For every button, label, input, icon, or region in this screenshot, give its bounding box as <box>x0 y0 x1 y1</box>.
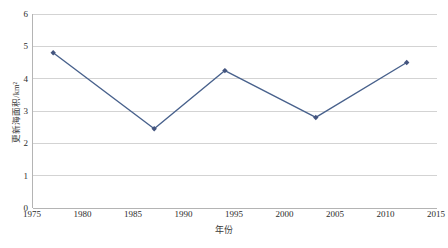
y-tick-label: 1 <box>14 171 28 180</box>
x-tick-label: 2005 <box>315 210 355 219</box>
y-tick-label: 3 <box>14 107 28 116</box>
data-series-layer <box>51 50 410 131</box>
y-tick-label: 4 <box>14 74 28 83</box>
x-tick-label: 1990 <box>164 210 204 219</box>
y-tick-label: 6 <box>14 10 28 19</box>
x-tick-label: 2015 <box>416 210 448 219</box>
x-tick-label: 1985 <box>113 210 153 219</box>
x-tick-label: 1975 <box>12 210 52 219</box>
gridlines <box>33 14 437 208</box>
y-tick-label: 5 <box>14 42 28 51</box>
x-tick-label: 1980 <box>63 210 103 219</box>
x-axis-tick-labels: 197519801985199019952000200520102015 <box>32 210 436 224</box>
line-chart: 更新海面积/km² 0123456 1975198019851990199520… <box>0 0 448 248</box>
plot-area <box>32 14 437 208</box>
y-axis-tick-labels: 0123456 <box>14 14 28 208</box>
x-tick-label: 2010 <box>366 210 406 219</box>
plot-canvas <box>33 14 437 208</box>
series-line <box>53 53 407 129</box>
y-tick-label: 2 <box>14 139 28 148</box>
x-tick-label: 1995 <box>214 210 254 219</box>
x-axis-title: 年份 <box>0 226 448 235</box>
x-tick-label: 2000 <box>265 210 305 219</box>
